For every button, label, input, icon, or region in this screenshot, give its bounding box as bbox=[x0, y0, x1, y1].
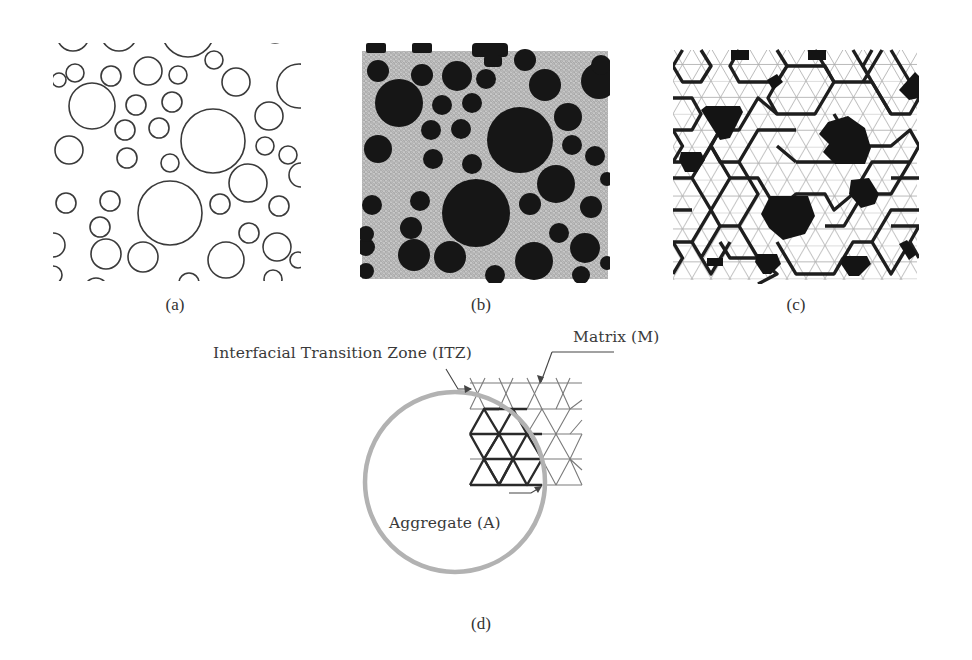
aggregate-arrow-icon bbox=[534, 486, 542, 493]
leader-lines bbox=[446, 352, 614, 493]
itz-label: Interfacial Transition Zone (ITZ) bbox=[213, 344, 472, 362]
caption-d: (d) bbox=[471, 614, 491, 634]
aggregate-lattice-thick bbox=[470, 409, 542, 485]
panel-d-itz-detail: Interfacial Transition Zone (ITZ) Matrix… bbox=[0, 0, 972, 660]
itz-leader-line bbox=[446, 369, 471, 389]
aggregate-label: Aggregate (A) bbox=[389, 514, 501, 532]
matrix-label: Matrix (M) bbox=[573, 328, 659, 346]
aggregate-boundary-circle bbox=[365, 392, 545, 572]
